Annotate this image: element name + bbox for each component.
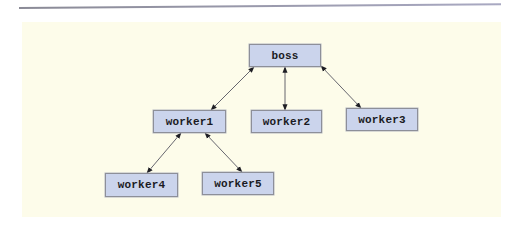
node-worker1: worker1 [153,110,226,133]
node-label: boss [271,50,298,62]
node-boss: boss [249,44,321,67]
top-divider-rule [19,3,501,9]
node-label: worker3 [358,114,406,126]
node-worker3: worker3 [346,108,418,131]
node-label: worker1 [166,116,214,128]
node-label: worker2 [263,116,311,128]
node-worker5: worker5 [202,172,274,195]
node-label: worker4 [118,179,166,191]
node-label: worker5 [214,178,262,190]
node-worker4: worker4 [105,173,178,197]
node-worker2: worker2 [251,110,322,133]
